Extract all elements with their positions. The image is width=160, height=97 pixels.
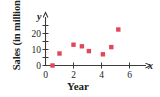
x-tick-label-4: 4 <box>99 70 104 80</box>
data-point <box>101 52 105 56</box>
y-tick-label-20: 20 <box>32 29 42 39</box>
y-tick-label-10: 10 <box>32 45 42 55</box>
y-tick-label-0: 0 <box>36 61 41 71</box>
x-tick-label-2: 2 <box>71 70 76 80</box>
data-point-group <box>50 27 120 67</box>
data-point <box>80 44 84 48</box>
data-point <box>57 51 61 55</box>
plot-area: 20 10 0 0 2 4 6 <box>0 0 160 97</box>
data-point <box>71 43 75 47</box>
data-point <box>50 63 54 67</box>
data-point <box>87 49 91 53</box>
data-point <box>109 45 113 49</box>
scatter-plot-figure: Sales (in millions) Year y x 20 <box>0 0 160 97</box>
data-point <box>116 27 120 31</box>
x-tick-label-6: 6 <box>127 70 132 80</box>
x-tick-label-0: 0 <box>43 70 48 80</box>
